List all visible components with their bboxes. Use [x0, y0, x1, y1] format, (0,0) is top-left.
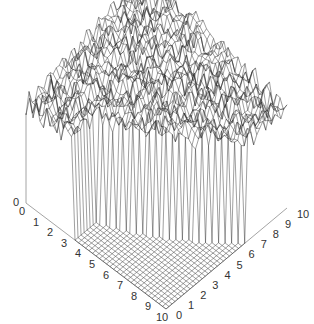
- z-axis-tick-label: 0: [13, 196, 19, 208]
- right-axis-tick-label: 6: [249, 248, 255, 260]
- left-axis-tick-label: 10: [156, 311, 168, 323]
- surface-plot: 0123456789100 012345678910: [0, 0, 314, 324]
- right-axis-tick-label: 4: [224, 269, 230, 281]
- right-axis-tick-label: 9: [285, 218, 291, 230]
- right-axis-tick-label: 1: [188, 299, 194, 311]
- left-axis-tick-label: 9: [145, 300, 151, 312]
- left-axis-tick-label: 0: [19, 205, 25, 217]
- right-axis-tick-label: 10: [297, 208, 309, 220]
- right-axis-tick-label: 3: [212, 279, 218, 291]
- right-axis-tick-label: 8: [273, 228, 279, 240]
- left-axis-tick-label: 6: [103, 269, 109, 281]
- right-axis-tick-label: 0: [176, 309, 182, 321]
- left-axis-tick-label: 1: [33, 216, 39, 228]
- right-axis-tick-label: 7: [261, 238, 267, 250]
- left-axis-tick-label: 4: [75, 247, 81, 259]
- left-axis-tick-label: 2: [47, 226, 53, 238]
- mesh-lines: [26, 0, 287, 309]
- left-axis-tick-label: 5: [89, 258, 95, 270]
- right-axis-tick-label: 2: [200, 289, 206, 301]
- left-axis-tick-label: 8: [131, 290, 137, 302]
- left-axis-tick-label: 7: [117, 279, 123, 291]
- right-axis-tick-label: 5: [237, 259, 243, 271]
- left-axis-tick-label: 3: [61, 237, 67, 249]
- wireframe-mesh: [26, 0, 287, 309]
